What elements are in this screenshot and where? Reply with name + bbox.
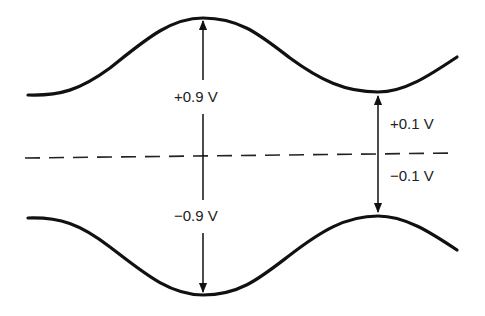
peak-positive-label: +0.9 V	[174, 89, 218, 105]
upper-envelope-curve	[28, 18, 457, 95]
waveform-diagram	[0, 0, 485, 316]
trough-negative-label: −0.1 V	[390, 168, 434, 184]
trough-positive-label: +0.1 V	[390, 116, 434, 132]
peak-negative-label: −0.9 V	[174, 208, 218, 224]
lower-envelope-curve	[28, 216, 457, 295]
zero-reference-line	[25, 153, 457, 158]
